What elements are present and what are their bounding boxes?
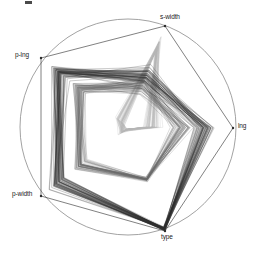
axis-label-p-lng: p-lng [15,51,29,58]
radviz-plot: s-width lng type p-width p-lng [0,0,257,254]
axis-label-s-width: s-width [160,13,180,20]
axis-label-p-width: p-width [12,190,32,197]
axis-label-lng: lng [238,122,246,129]
anchor-edge [41,26,165,58]
axis-anchor-point[interactable] [40,195,42,197]
axis-anchor-point[interactable] [164,25,166,27]
axis-label-type: type [161,233,173,240]
axis-anchor-point[interactable] [232,127,234,129]
axis-anchor-point[interactable] [164,230,166,232]
record-polyline-layer [49,37,214,231]
axis-anchor-point[interactable] [40,57,42,59]
radviz-canvas [0,0,257,254]
